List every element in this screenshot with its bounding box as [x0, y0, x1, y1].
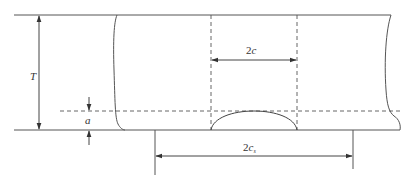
- diagram-svg: [0, 0, 412, 189]
- right-break-edge: [385, 15, 400, 130]
- surface-length-label: 2cs: [243, 142, 256, 154]
- crack-length-var: c: [252, 44, 257, 56]
- crack-geometry-diagram: T 2c a 2cs: [0, 0, 412, 189]
- crack-depth-label: a: [85, 115, 91, 126]
- left-break-edge: [114, 15, 125, 130]
- crack-length-label: 2c: [246, 45, 256, 56]
- thickness-label: T: [30, 71, 36, 82]
- thickness-label-text: T: [30, 70, 36, 82]
- surface-length-subscript: s: [253, 148, 255, 154]
- crack-depth-label-text: a: [85, 114, 91, 126]
- crack-profile-semi-ellipse: [211, 111, 297, 130]
